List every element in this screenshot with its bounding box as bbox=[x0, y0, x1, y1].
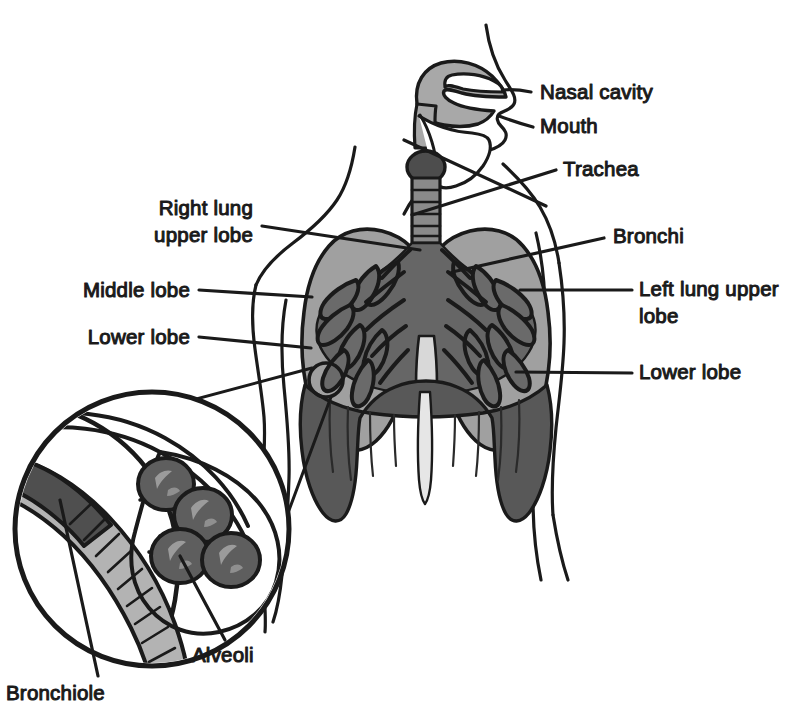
leader-lower-left bbox=[516, 372, 632, 373]
svg-text:Left lung upper: Left lung upper bbox=[639, 277, 779, 300]
svg-text:Right lung: Right lung bbox=[159, 196, 253, 219]
label-lower-lobe-left: Lower lobe bbox=[639, 360, 741, 383]
alveolus-4 bbox=[202, 533, 260, 587]
label-alveoli: Alveoli bbox=[192, 643, 254, 666]
mediastinum-strip bbox=[416, 336, 437, 386]
label-nasal-cavity: Nasal cavity bbox=[540, 80, 653, 103]
label-left-lung-upper-lobe: Left lung upper lobe bbox=[639, 277, 779, 327]
svg-text:upper lobe: upper lobe bbox=[154, 223, 253, 246]
diaphragm-center-strip bbox=[418, 392, 432, 504]
respiratory-system-diagram: Nasal cavity Mouth Trachea Bronchi Left … bbox=[0, 0, 802, 713]
label-middle-lobe: Middle lobe bbox=[83, 278, 190, 301]
diagram-canvas: Nasal cavity Mouth Trachea Bronchi Left … bbox=[0, 0, 802, 713]
trachea-group bbox=[407, 151, 445, 243]
svg-text:lobe: lobe bbox=[639, 304, 679, 327]
label-bronchiole: Bronchiole bbox=[6, 681, 105, 704]
label-right-lung-upper-lobe: Right lung upper lobe bbox=[154, 196, 253, 246]
leader-mouth bbox=[499, 116, 533, 127]
alveoli-inset bbox=[0, 368, 331, 686]
label-mouth: Mouth bbox=[540, 114, 598, 137]
label-bronchi: Bronchi bbox=[613, 224, 684, 247]
label-lower-lobe-right: Lower lobe bbox=[88, 325, 190, 348]
label-trachea: Trachea bbox=[563, 157, 639, 180]
leader-nasal-cavity bbox=[503, 90, 531, 92]
